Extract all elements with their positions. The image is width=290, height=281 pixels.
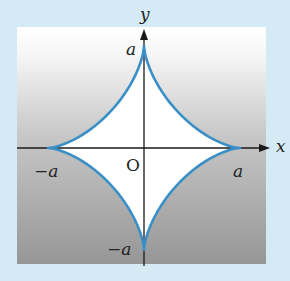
y-axis-label: y: [140, 6, 150, 23]
x-axis-label: x: [276, 138, 286, 155]
tick-x-positive: a: [233, 163, 243, 180]
astroid-plot: [0, 0, 290, 281]
origin-label: O: [126, 157, 140, 174]
tick-y-positive: a: [126, 41, 136, 58]
tick-y-negative: −a: [107, 241, 131, 258]
tick-x-negative: −a: [34, 163, 58, 180]
astroid-figure: y x O a −a −a a: [0, 0, 290, 281]
